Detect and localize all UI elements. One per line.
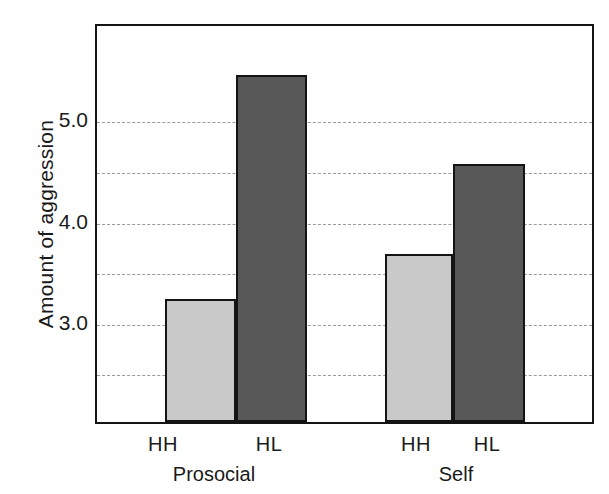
y-tick-label-3-0: 3.0 <box>38 312 88 333</box>
x-tick-label-prosocial-hh: HH <box>118 432 208 456</box>
group-label-self: Self <box>366 462 546 486</box>
x-tick-label-self-hl: HL <box>442 432 532 456</box>
gridline-5 <box>97 122 592 123</box>
bar-prosocial-hl <box>236 75 307 422</box>
plot-area <box>95 24 594 424</box>
bar-chart-figure: Amount of aggression 5.0 4.0 3.0 HH HL H… <box>0 0 609 494</box>
group-label-prosocial: Prosocial <box>124 462 304 486</box>
y-tick-label-4-0: 4.0 <box>38 211 88 232</box>
y-tick-label-5-0: 5.0 <box>38 109 88 130</box>
x-tick-label-prosocial-hl: HL <box>224 432 314 456</box>
bar-prosocial-hh <box>165 299 236 423</box>
bar-self-hh <box>385 254 453 422</box>
bar-self-hl <box>453 164 525 422</box>
